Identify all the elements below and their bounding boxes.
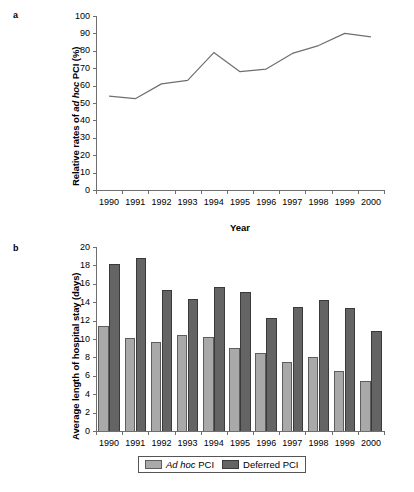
panel-b-x-tick-mark xyxy=(175,431,176,435)
panel-a-data-line xyxy=(96,16,384,191)
panel-b-x-tick-mark xyxy=(358,431,359,435)
panel-a-x-tick-label: 1996 xyxy=(253,198,279,207)
panel-a-y-tick-label: 50 xyxy=(58,99,90,108)
panel-a-y-tick-mark xyxy=(93,86,96,87)
bar-adhoc-1996 xyxy=(255,353,266,431)
panel-b-x-tick-label: 2000 xyxy=(358,439,384,448)
panel-b-y-tick-label: 16 xyxy=(60,279,90,288)
panel-b-y-tick-mark xyxy=(93,247,96,248)
panel-a: a Relative rates of ad hoc PCI (%) 10090… xyxy=(0,0,414,240)
panel-a-y-tick-mark xyxy=(93,33,96,34)
panel-a-y-tick-label: 90 xyxy=(58,29,90,38)
panel-b-legend: Ad hoc PCI Deferred PCI xyxy=(138,456,306,473)
bar-adhoc-1999 xyxy=(334,371,345,431)
panel-a-x-tick-mark xyxy=(358,190,359,194)
panel-b-x-tick-mark xyxy=(279,431,280,435)
panel-a-x-tick-mark xyxy=(384,190,385,194)
panel-b-x-tick-label: 1998 xyxy=(305,439,331,448)
panel-b-x-tick-mark xyxy=(96,431,97,435)
panel-a-y-tick-mark xyxy=(93,103,96,104)
panel-a-x-tick-mark xyxy=(201,190,202,194)
bar-deferred-1991 xyxy=(136,258,147,431)
panel-a-x-axis-title: Year xyxy=(96,222,384,233)
panel-b-plot-area xyxy=(96,247,384,432)
panel-a-x-tick-label: 1993 xyxy=(175,198,201,207)
panel-b-y-tick-label: 2 xyxy=(60,408,90,417)
panel-a-y-tick-label: 0 xyxy=(58,186,90,195)
panel-b-y-axis xyxy=(96,247,97,432)
panel-a-y-tick-mark xyxy=(93,68,96,69)
panel-a-y-tick-label: 10 xyxy=(58,168,90,177)
panel-b-x-tick-label: 1994 xyxy=(201,439,227,448)
panel-b-x-tick-mark xyxy=(201,431,202,435)
panel-b-y-tick-label: 4 xyxy=(60,390,90,399)
panel-a-x-tick-mark xyxy=(175,190,176,194)
panel-b-x-tick-label: 1991 xyxy=(122,439,148,448)
panel-b-x-axis xyxy=(96,431,384,432)
panel-b-y-tick-label: 20 xyxy=(60,243,90,252)
panel-a-label: a xyxy=(13,11,18,20)
panel-a-y-tick-label: 80 xyxy=(58,46,90,55)
panel-a-y-tick-mark xyxy=(93,51,96,52)
bar-adhoc-1998 xyxy=(308,357,319,431)
panel-b-y-tick-mark xyxy=(93,413,96,414)
panel-b-y-tick-mark xyxy=(93,321,96,322)
panel-b-label: b xyxy=(13,244,19,253)
bar-adhoc-1990 xyxy=(98,326,109,431)
panel-b: b Average length of hospital stay (days)… xyxy=(0,240,414,492)
panel-b-y-tick-label: 18 xyxy=(60,261,90,270)
bar-adhoc-1991 xyxy=(125,338,136,431)
panel-b-x-tick-label: 1992 xyxy=(148,439,174,448)
bar-deferred-1993 xyxy=(188,299,199,431)
bar-deferred-1998 xyxy=(319,300,330,431)
panel-b-y-tick-label: 6 xyxy=(60,371,90,380)
panel-b-x-tick-mark xyxy=(122,431,123,435)
legend-swatch-adhoc-icon xyxy=(145,460,162,469)
panel-b-y-tick-mark xyxy=(93,302,96,303)
legend-label-adhoc: Ad hoc PCI xyxy=(166,459,214,470)
panel-a-y-tick-mark xyxy=(93,138,96,139)
legend-item-adhoc: Ad hoc PCI xyxy=(145,459,214,470)
panel-a-x-tick-mark xyxy=(96,190,97,194)
bar-adhoc-1994 xyxy=(203,337,214,431)
panel-b-x-tick-mark xyxy=(148,431,149,435)
panel-a-x-tick-mark xyxy=(305,190,306,194)
panel-b-x-tick-mark xyxy=(253,431,254,435)
panel-b-y-tick-mark xyxy=(93,394,96,395)
panel-b-x-tick-label: 1999 xyxy=(332,439,358,448)
bar-deferred-1997 xyxy=(293,307,304,431)
panel-a-x-tick-mark xyxy=(227,190,228,194)
panel-b-x-tick-label: 1995 xyxy=(227,439,253,448)
bar-deferred-1996 xyxy=(266,318,277,431)
panel-b-y-tick-mark xyxy=(93,357,96,358)
panel-a-x-tick-label: 1991 xyxy=(122,198,148,207)
panel-a-x-tick-label: 1995 xyxy=(227,198,253,207)
bar-deferred-1999 xyxy=(345,308,356,431)
panel-a-y-tick-label: 40 xyxy=(58,116,90,125)
panel-a-x-tick-mark xyxy=(253,190,254,194)
panel-b-y-tick-mark xyxy=(93,339,96,340)
panel-a-x-tick-mark xyxy=(279,190,280,194)
bar-deferred-1994 xyxy=(214,287,225,431)
panel-a-y-tick-label: 70 xyxy=(58,64,90,73)
panel-a-y-tick-mark xyxy=(93,173,96,174)
panel-a-y-tick-mark xyxy=(93,155,96,156)
panel-a-y-tick-label: 30 xyxy=(58,133,90,142)
panel-b-y-tick-label: 10 xyxy=(60,335,90,344)
panel-a-x-tick-label: 1990 xyxy=(96,198,122,207)
bar-adhoc-1992 xyxy=(151,342,162,431)
bar-deferred-1990 xyxy=(109,264,120,431)
panel-a-x-tick-label: 2000 xyxy=(358,198,384,207)
bar-deferred-1992 xyxy=(162,290,173,431)
panel-a-x-tick-label: 1997 xyxy=(279,198,305,207)
panel-b-x-tick-label: 1997 xyxy=(279,439,305,448)
bar-deferred-1995 xyxy=(240,292,251,431)
panel-b-y-tick-mark xyxy=(93,265,96,266)
bar-adhoc-1993 xyxy=(177,335,188,431)
panel-a-x-tick-mark xyxy=(122,190,123,194)
panel-b-x-tick-label: 1990 xyxy=(96,439,122,448)
panel-a-x-tick-label: 1998 xyxy=(305,198,331,207)
panel-a-y-tick-mark xyxy=(93,120,96,121)
panel-a-y-tick-label: 20 xyxy=(58,151,90,160)
panel-b-x-tick-label: 1996 xyxy=(253,439,279,448)
